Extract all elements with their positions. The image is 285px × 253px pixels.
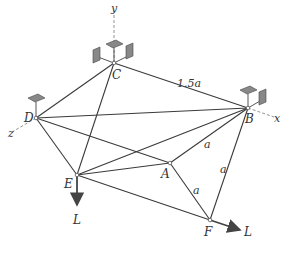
load-label-e: L — [72, 213, 81, 227]
joint-label-b: B — [244, 112, 254, 126]
truss-members — [36, 63, 248, 220]
support-b — [240, 86, 266, 108]
joint-label-c: C — [112, 68, 121, 82]
dim-bf: a — [220, 163, 227, 176]
joint-label-a: A — [160, 167, 170, 181]
load-label-f: L — [243, 225, 252, 239]
load-arrow-f — [210, 220, 240, 230]
z-axis-label: z — [7, 127, 14, 140]
y-axis-label: y — [110, 2, 118, 15]
space-truss-diagram: y x z C B D E A F 1.5a a a a L L — [0, 0, 285, 253]
support-c — [93, 40, 133, 63]
joint-label-d: D — [23, 111, 34, 125]
dim-cb: 1.5a — [177, 77, 201, 90]
x-axis-label: x — [274, 112, 281, 125]
joint-label-f: F — [203, 225, 213, 239]
dim-af: a — [193, 184, 200, 197]
joint-label-e: E — [63, 177, 73, 191]
dim-ab: a — [204, 138, 211, 151]
